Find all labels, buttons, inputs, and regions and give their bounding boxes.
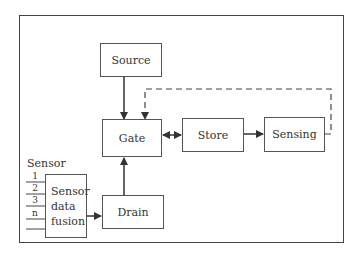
node-gate-label: Gate: [119, 132, 145, 145]
node-source: Source: [100, 43, 162, 77]
sensor-title: Sensor: [27, 157, 66, 170]
fusion-line-2: data: [51, 199, 90, 214]
node-drain-label: Drain: [117, 206, 148, 219]
node-sensing-label: Sensing: [272, 128, 316, 141]
sensor-input-2: 2: [26, 183, 44, 193]
node-sensor-data-fusion: Sensor data fusion: [45, 174, 87, 238]
sensor-input-n: n: [26, 208, 44, 218]
node-store-label: Store: [198, 129, 228, 142]
sensor-input-1: 1: [26, 171, 44, 181]
fusion-line-1: Sensor: [51, 184, 90, 199]
node-gate: Gate: [102, 119, 162, 157]
node-drain: Drain: [102, 195, 164, 229]
node-sensing: Sensing: [264, 117, 325, 152]
node-store: Store: [182, 118, 244, 152]
sensor-input-3: 3: [26, 195, 44, 205]
node-source-label: Source: [111, 54, 150, 67]
fusion-line-3: fusion: [51, 214, 90, 229]
